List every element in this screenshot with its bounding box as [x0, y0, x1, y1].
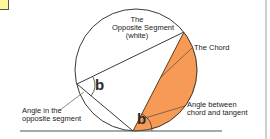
angle-b-inscribed: b — [95, 77, 104, 92]
diagram-canvas: The Opposite Segment (white) The Chord A… — [0, 0, 270, 139]
label-angle-chord-tangent: Angle between chord and tangent — [187, 101, 247, 117]
angle-b-tangent: b — [137, 111, 146, 126]
label-opposite-segment: The Opposite Segment (white) — [112, 16, 162, 40]
inscribed-line-to-tangent-point — [77, 84, 133, 131]
label-chord: The Chord — [194, 44, 229, 52]
label-opposite-line3: (white) — [112, 32, 162, 40]
label-angle-opposite: Angle in the opposite segment — [22, 107, 81, 123]
label-angle-opposite-line2: opposite segment — [22, 115, 81, 123]
label-angle-ct-line2: chord and tangent — [187, 109, 247, 117]
